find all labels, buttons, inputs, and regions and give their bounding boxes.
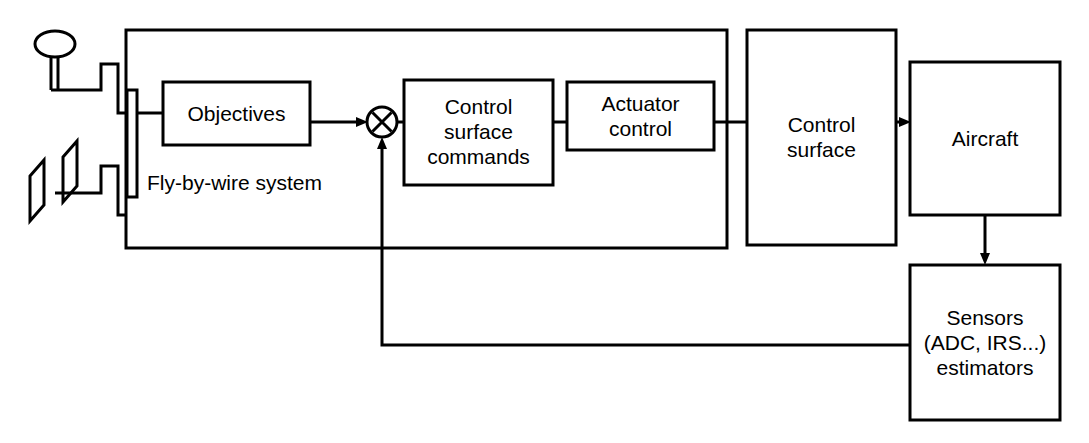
diagram-vector-layer	[0, 0, 1089, 443]
control-stick-grip	[35, 31, 75, 57]
objectives-block[interactable]	[163, 82, 310, 145]
control-surface-commands-block[interactable]	[404, 80, 553, 185]
summing-junction[interactable]	[367, 107, 397, 137]
sensors-feedback-arrowhead	[377, 137, 387, 149]
rudder-pedals-icon[interactable]	[30, 141, 127, 221]
actuator-control-block[interactable]	[567, 82, 714, 150]
input-bus	[127, 90, 137, 197]
fly-by-wire-system-label: Fly-by-wire system	[147, 170, 322, 195]
aircraft-block[interactable]	[910, 62, 1060, 215]
diagram-canvas: Objectives Control surface commands Actu…	[0, 0, 1089, 443]
rudder-pedal-left	[30, 160, 44, 221]
control-stick-linkage	[58, 64, 127, 113]
control-surface-block[interactable]	[747, 30, 896, 245]
aircraft-to-sensors-arrowhead	[980, 253, 990, 265]
sensors-block[interactable]	[910, 265, 1060, 420]
control-stick-icon[interactable]	[35, 31, 127, 113]
